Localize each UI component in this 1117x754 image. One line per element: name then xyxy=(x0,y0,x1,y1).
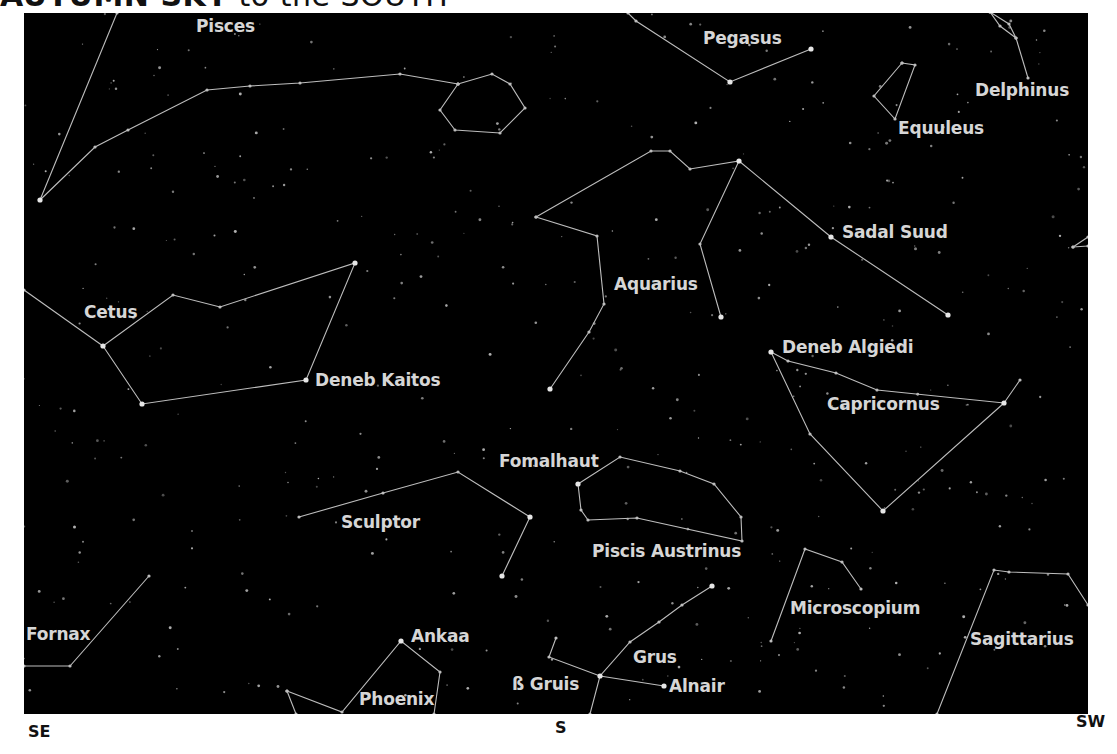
star xyxy=(419,648,421,650)
star xyxy=(740,444,742,446)
star xyxy=(554,636,557,639)
star xyxy=(551,52,552,53)
star xyxy=(455,211,457,213)
constellation-line xyxy=(24,576,149,666)
star xyxy=(445,304,448,307)
star xyxy=(335,521,337,523)
star xyxy=(808,432,811,435)
star xyxy=(286,515,288,517)
star xyxy=(592,337,594,339)
constellation-pegasus xyxy=(626,13,812,84)
star xyxy=(150,167,152,169)
star xyxy=(82,541,84,543)
star xyxy=(739,515,742,518)
star xyxy=(779,560,780,561)
star xyxy=(869,207,871,209)
star xyxy=(318,478,320,480)
constellation-line xyxy=(536,217,604,389)
star xyxy=(771,553,773,555)
star xyxy=(865,462,867,464)
star xyxy=(1028,528,1030,530)
star xyxy=(681,518,682,519)
star xyxy=(1056,316,1058,318)
constellation-equuleus xyxy=(872,61,916,120)
star xyxy=(255,131,258,134)
star xyxy=(678,469,681,472)
star xyxy=(113,226,115,228)
sky-map: PiscesPegasusDelphinusEquuleusSadal Suud… xyxy=(24,13,1088,714)
star xyxy=(796,648,799,651)
direction-se: SE xyxy=(28,722,50,741)
star xyxy=(259,23,260,24)
star xyxy=(511,223,513,225)
star xyxy=(1008,288,1010,290)
star xyxy=(78,562,80,564)
star xyxy=(510,36,512,38)
label--gruis: ß Gruis xyxy=(512,674,579,694)
star xyxy=(93,145,96,148)
star xyxy=(454,453,455,454)
star xyxy=(765,50,767,52)
label-deneb-kaitos: Deneb Kaitos xyxy=(315,370,440,390)
star xyxy=(129,601,131,603)
bright-star xyxy=(709,583,714,588)
bright-star xyxy=(527,514,532,519)
star xyxy=(712,482,715,485)
star xyxy=(957,93,959,95)
star xyxy=(545,284,546,285)
star xyxy=(438,108,441,111)
star xyxy=(941,469,944,472)
star xyxy=(370,157,372,159)
star xyxy=(160,347,162,349)
constellation-line xyxy=(771,352,1004,511)
star xyxy=(962,177,964,179)
star xyxy=(305,420,307,422)
star xyxy=(796,250,799,253)
star xyxy=(628,640,631,643)
star xyxy=(53,602,54,603)
star xyxy=(794,642,795,643)
label-capricornus: Capricornus xyxy=(827,394,940,414)
star xyxy=(554,45,556,47)
star xyxy=(793,395,795,397)
star xyxy=(213,234,215,236)
star xyxy=(515,595,518,598)
star xyxy=(157,49,158,50)
star xyxy=(95,263,97,265)
star xyxy=(815,670,817,672)
star xyxy=(329,296,332,299)
title-main: AUTUMN SKY xyxy=(0,0,228,13)
label-grus: Grus xyxy=(633,647,677,667)
bright-star xyxy=(661,683,666,688)
star xyxy=(177,414,178,415)
star xyxy=(316,605,318,607)
star xyxy=(431,241,434,244)
star xyxy=(678,666,681,669)
star xyxy=(930,145,933,148)
star xyxy=(489,353,492,356)
star xyxy=(283,184,285,186)
star xyxy=(818,516,820,518)
star xyxy=(1056,119,1058,121)
star xyxy=(1080,308,1082,310)
star xyxy=(805,247,808,250)
star xyxy=(1007,22,1010,25)
star xyxy=(596,100,598,102)
star xyxy=(115,87,118,90)
star xyxy=(828,588,829,589)
star xyxy=(642,679,644,681)
star xyxy=(82,43,83,44)
star xyxy=(894,489,896,491)
star xyxy=(760,441,761,442)
star xyxy=(333,68,335,70)
star xyxy=(24,104,26,106)
star xyxy=(393,297,395,299)
star xyxy=(248,84,251,87)
star xyxy=(377,456,380,459)
star xyxy=(433,156,435,158)
star xyxy=(949,487,951,489)
star xyxy=(896,104,898,106)
star xyxy=(627,466,630,469)
star xyxy=(152,154,154,156)
star xyxy=(952,201,954,203)
